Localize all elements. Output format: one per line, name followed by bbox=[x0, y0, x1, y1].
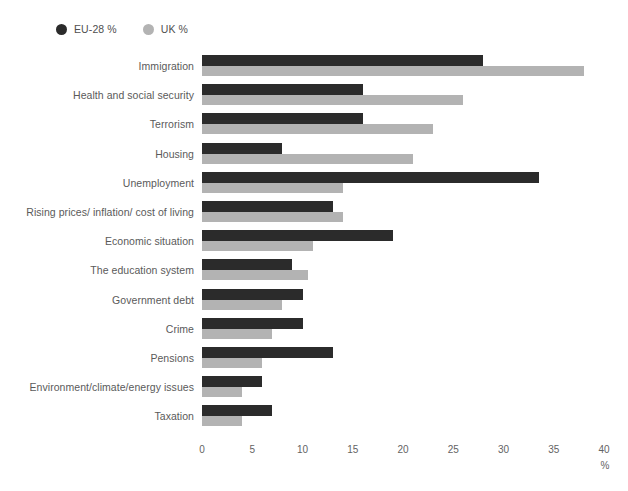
bar-eu28[interactable] bbox=[202, 172, 539, 183]
bar-eu28[interactable] bbox=[202, 318, 303, 329]
chart-row: Terrorism bbox=[0, 113, 628, 135]
chart-plot-area: ImmigrationHealth and social securityTer… bbox=[0, 52, 628, 444]
bar-uk[interactable] bbox=[202, 387, 242, 397]
x-axis: % 0510152025303540 bbox=[202, 441, 604, 491]
category-label: Immigration bbox=[139, 55, 194, 77]
bar-eu28[interactable] bbox=[202, 376, 262, 387]
bar-uk[interactable] bbox=[202, 358, 262, 368]
bar-eu28[interactable] bbox=[202, 113, 363, 124]
chart-row: Taxation bbox=[0, 405, 628, 427]
bar-group bbox=[202, 259, 622, 281]
bar-uk[interactable] bbox=[202, 416, 242, 426]
bar-group bbox=[202, 376, 622, 398]
category-label: Crime bbox=[166, 318, 194, 340]
x-axis-tick-label: 30 bbox=[498, 445, 509, 455]
legend-item-label: EU-28 % bbox=[74, 24, 117, 35]
bar-group bbox=[202, 201, 622, 223]
bar-group bbox=[202, 55, 622, 77]
bar-uk[interactable] bbox=[202, 154, 413, 164]
chart-row: Crime bbox=[0, 318, 628, 340]
bar-uk[interactable] bbox=[202, 124, 433, 134]
chart-row: Pensions bbox=[0, 347, 628, 369]
bar-group bbox=[202, 143, 622, 165]
category-label: Environment/climate/energy issues bbox=[30, 376, 194, 398]
x-axis-tick-label: 20 bbox=[397, 445, 408, 455]
bar-group bbox=[202, 84, 622, 106]
chart-row: Environment/climate/energy issues bbox=[0, 376, 628, 398]
bar-uk[interactable] bbox=[202, 329, 272, 339]
chart-legend: EU-28 %UK % bbox=[56, 22, 188, 36]
bar-eu28[interactable] bbox=[202, 143, 282, 154]
bar-eu28[interactable] bbox=[202, 347, 333, 358]
category-label: Housing bbox=[155, 143, 194, 165]
category-label: Rising prices/ inflation/ cost of living bbox=[26, 201, 194, 223]
bar-eu28[interactable] bbox=[202, 201, 333, 212]
bar-uk[interactable] bbox=[202, 183, 343, 193]
circle-marker-icon bbox=[56, 24, 67, 35]
legend-item[interactable]: EU-28 % bbox=[56, 22, 117, 36]
bar-eu28[interactable] bbox=[202, 259, 292, 270]
chart-row: Immigration bbox=[0, 55, 628, 77]
bar-eu28[interactable] bbox=[202, 289, 303, 300]
bar-eu28[interactable] bbox=[202, 84, 363, 95]
bar-group bbox=[202, 172, 622, 194]
bar-group bbox=[202, 289, 622, 311]
chart-row: Housing bbox=[0, 143, 628, 165]
category-label: Unemployment bbox=[123, 172, 194, 194]
category-label: Taxation bbox=[154, 405, 194, 427]
x-axis-tick-label: 5 bbox=[249, 445, 255, 455]
bar-group bbox=[202, 318, 622, 340]
x-axis-tick-label: 0 bbox=[199, 445, 205, 455]
bar-uk[interactable] bbox=[202, 95, 463, 105]
bar-group bbox=[202, 405, 622, 427]
bar-eu28[interactable] bbox=[202, 405, 272, 416]
category-label: Terrorism bbox=[150, 113, 194, 135]
bar-group bbox=[202, 113, 622, 135]
legend-item-label: UK % bbox=[161, 24, 188, 35]
x-axis-tick-label: 35 bbox=[548, 445, 559, 455]
chart-row: Rising prices/ inflation/ cost of living bbox=[0, 201, 628, 223]
category-label: Health and social security bbox=[73, 84, 194, 106]
x-axis-tick-label: 40 bbox=[598, 445, 609, 455]
category-label: The education system bbox=[90, 259, 194, 281]
legend-item[interactable]: UK % bbox=[143, 22, 188, 36]
x-axis-tick-label: 10 bbox=[297, 445, 308, 455]
x-axis-unit-label: % bbox=[601, 461, 610, 471]
bar-uk[interactable] bbox=[202, 270, 308, 280]
bar-eu28[interactable] bbox=[202, 230, 393, 241]
category-label: Government debt bbox=[112, 289, 194, 311]
x-axis-tick-label: 25 bbox=[448, 445, 459, 455]
bar-uk[interactable] bbox=[202, 300, 282, 310]
category-label: Economic situation bbox=[105, 230, 194, 252]
chart-row: Economic situation bbox=[0, 230, 628, 252]
chart-row: Government debt bbox=[0, 289, 628, 311]
circle-marker-icon bbox=[143, 24, 154, 35]
bar-uk[interactable] bbox=[202, 241, 313, 251]
bar-uk[interactable] bbox=[202, 66, 584, 76]
x-axis-tick-label: 15 bbox=[347, 445, 358, 455]
bar-uk[interactable] bbox=[202, 212, 343, 222]
chart-row: The education system bbox=[0, 259, 628, 281]
bar-group bbox=[202, 347, 622, 369]
chart-row: Health and social security bbox=[0, 84, 628, 106]
category-label: Pensions bbox=[150, 347, 194, 369]
bar-eu28[interactable] bbox=[202, 55, 483, 66]
chart-row: Unemployment bbox=[0, 172, 628, 194]
bar-group bbox=[202, 230, 622, 252]
